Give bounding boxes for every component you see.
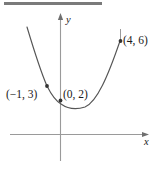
- data-point-4-6: [119, 39, 123, 43]
- graph-figure: (−1, 3) (0, 2) (4, 6) y x: [0, 0, 162, 173]
- y-axis-label: y: [66, 15, 71, 26]
- coordinate-plot: [0, 0, 162, 173]
- x-axis: [10, 132, 149, 137]
- y-axis: [58, 13, 63, 161]
- point-label-4-6: (4, 6): [123, 35, 148, 47]
- data-point-minus1-3: [45, 84, 49, 88]
- data-point-0-2: [59, 99, 63, 103]
- point-label-minus1-3: (−1, 3): [6, 89, 37, 101]
- x-axis-label: x: [144, 137, 149, 148]
- point-label-0-2: (0, 2): [63, 89, 88, 101]
